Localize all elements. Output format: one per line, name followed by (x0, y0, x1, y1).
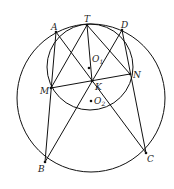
point-N (129, 73, 132, 76)
circle-o2 (17, 24, 165, 172)
segment-AC (56, 32, 146, 153)
point-O1 (88, 67, 91, 70)
geometry-diagram: T A D M N K B C O1 O2 (0, 0, 174, 189)
label-D: D (120, 20, 128, 30)
point-T (86, 24, 89, 27)
label-O2: O2 (94, 96, 105, 107)
point-M (50, 87, 53, 90)
label-O1: O1 (92, 54, 103, 65)
segment-TN (87, 25, 130, 74)
label-M: M (39, 86, 50, 96)
segment-TK (87, 25, 92, 81)
segment-TM (51, 25, 87, 88)
point-O2 (90, 100, 93, 103)
segment-DB (45, 30, 122, 162)
label-A: A (50, 22, 58, 32)
label-K: K (94, 82, 103, 92)
point-K (91, 80, 94, 83)
point-B (44, 161, 47, 164)
label-C: C (147, 154, 154, 164)
label-B: B (37, 164, 45, 174)
label-T: T (84, 14, 91, 24)
segment-MN (51, 74, 130, 88)
segment-AB (45, 32, 56, 162)
label-N: N (132, 70, 142, 80)
